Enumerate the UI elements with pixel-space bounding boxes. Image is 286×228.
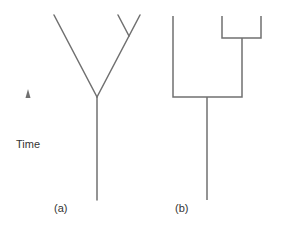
tree-b bbox=[173, 16, 261, 200]
tree-a-sub-branch bbox=[118, 15, 129, 36]
tree-b-upper-bracket bbox=[222, 16, 261, 38]
tree-b-lower-bracket bbox=[173, 16, 242, 97]
tree-a-right-branch bbox=[97, 15, 140, 97]
phylogeny-diagram bbox=[0, 0, 286, 228]
panel-b-label: (b) bbox=[175, 203, 188, 214]
time-axis-label: Time bbox=[15, 139, 41, 150]
tree-a bbox=[54, 15, 140, 200]
panel-a-label: (a) bbox=[54, 203, 67, 214]
tree-a-left-branch bbox=[54, 15, 97, 97]
